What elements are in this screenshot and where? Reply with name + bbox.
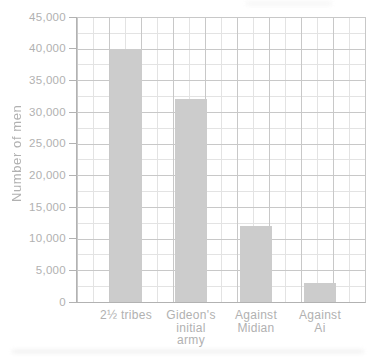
bar: [110, 49, 142, 302]
y-tick-mark: [69, 112, 76, 113]
y-tick-mark: [69, 48, 76, 49]
y-tick-mark: [69, 143, 76, 144]
y-tick-label: 0: [0, 296, 66, 309]
y-tick-label: 25,000: [0, 137, 66, 150]
y-tick-label: 5,000: [0, 264, 66, 277]
scan-artifact-top: [246, 2, 332, 5]
bar: [240, 226, 272, 302]
y-tick-mark: [69, 238, 76, 239]
y-tick-mark: [69, 175, 76, 176]
scan-artifact-bottom: [12, 350, 364, 353]
y-tick-mark: [69, 17, 76, 18]
y-tick-label: 10,000: [0, 232, 66, 245]
bar: [304, 283, 336, 302]
y-tick-mark: [69, 270, 76, 271]
y-tick-label: 35,000: [0, 74, 66, 87]
y-tick-label: 40,000: [0, 42, 66, 55]
y-tick-label: 30,000: [0, 106, 66, 119]
y-tick-label: 45,000: [0, 11, 66, 24]
x-category-label: Against Ai: [278, 309, 362, 334]
y-tick-label: 20,000: [0, 169, 66, 182]
y-tick-mark: [69, 302, 76, 303]
y-tick-mark: [69, 207, 76, 208]
bar-chart: Number of men 45,00040,00035,00030,00025…: [0, 0, 376, 357]
y-tick-label: 15,000: [0, 201, 66, 214]
y-tick-mark: [69, 80, 76, 81]
bar: [175, 99, 207, 302]
